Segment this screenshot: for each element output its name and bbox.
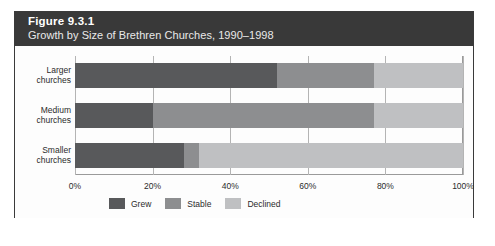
chart-panel: LargerchurchesMediumchurchesSmallerchurc… bbox=[15, 46, 473, 218]
legend-swatch-icon bbox=[165, 198, 181, 209]
x-tick-label: 40% bbox=[222, 181, 239, 191]
bar-segment-stable bbox=[184, 143, 200, 168]
legend-item-grew[interactable]: Grew bbox=[109, 198, 151, 209]
category-label-line: churches bbox=[21, 115, 71, 125]
bar-segment-declined bbox=[374, 103, 463, 128]
category-label-line: Larger bbox=[21, 65, 71, 75]
x-tick-label: 100% bbox=[452, 181, 474, 191]
bar-segment-declined bbox=[374, 63, 463, 88]
chart-legend: GrewStableDeclined bbox=[109, 198, 295, 209]
bar-row bbox=[21, 103, 469, 128]
legend-label: Grew bbox=[131, 199, 151, 209]
figure-subtitle: Growth by Size of Brethren Churches, 199… bbox=[28, 28, 473, 42]
bar-segment-stable bbox=[277, 63, 374, 88]
figure-number-title: Figure 9.3.1 bbox=[28, 15, 473, 28]
bar-segment-declined bbox=[199, 143, 463, 168]
bar-row bbox=[21, 63, 469, 88]
legend-label: Stable bbox=[187, 199, 211, 209]
legend-item-declined[interactable]: Declined bbox=[225, 198, 280, 209]
x-tick-label: 0% bbox=[69, 181, 81, 191]
figure-header: Figure 9.3.1 Growth by Size of Brethren … bbox=[15, 12, 473, 46]
bar-segment-grew bbox=[75, 143, 184, 168]
legend-label: Declined bbox=[247, 199, 280, 209]
x-tick-label: 20% bbox=[144, 181, 161, 191]
x-tick-label: 80% bbox=[377, 181, 394, 191]
figure-container: Figure 9.3.1 Growth by Size of Brethren … bbox=[14, 11, 474, 218]
category-label-line: churches bbox=[21, 155, 71, 165]
category-label-line: churches bbox=[21, 75, 71, 85]
category-label-line: Medium bbox=[21, 105, 71, 115]
legend-swatch-icon bbox=[109, 198, 125, 209]
category-label-larger: Largerchurches bbox=[21, 65, 71, 85]
bar-segment-grew bbox=[75, 103, 153, 128]
plot-inner: LargerchurchesMediumchurchesSmallerchurc… bbox=[21, 50, 469, 214]
bar-segment-grew bbox=[75, 63, 277, 88]
category-label-smaller: Smallerchurches bbox=[21, 145, 71, 165]
category-label-medium: Mediumchurches bbox=[21, 105, 71, 125]
x-tick-label: 60% bbox=[299, 181, 316, 191]
bar-row bbox=[21, 143, 469, 168]
category-label-line: Smaller bbox=[21, 145, 71, 155]
legend-swatch-icon bbox=[225, 198, 241, 209]
bar-segment-stable bbox=[153, 103, 374, 128]
legend-item-stable[interactable]: Stable bbox=[165, 198, 211, 209]
